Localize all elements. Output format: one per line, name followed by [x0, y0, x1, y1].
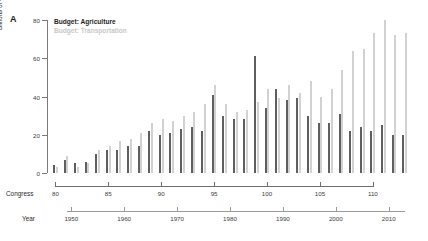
bar	[381, 125, 383, 173]
bar	[299, 93, 301, 173]
bar	[236, 112, 238, 173]
bar	[243, 119, 245, 173]
y-axis-tick	[42, 20, 47, 21]
bar	[339, 114, 341, 173]
bar	[214, 85, 216, 173]
year-axis-tick-label: 1960	[117, 215, 131, 222]
bar	[95, 154, 97, 173]
bar	[66, 156, 68, 173]
congress-axis-tick	[55, 182, 56, 187]
bar	[74, 163, 76, 173]
year-axis-tick	[124, 207, 125, 212]
bar	[225, 104, 227, 173]
bar	[180, 129, 182, 173]
bar	[159, 135, 161, 173]
bar-series-layer	[48, 20, 412, 173]
bar	[246, 110, 248, 173]
bar	[116, 150, 118, 173]
year-axis-tick	[336, 207, 337, 212]
congress-axis-tick-label: 100	[262, 190, 272, 197]
bar	[307, 116, 309, 173]
bar	[77, 167, 79, 173]
bar	[64, 160, 66, 173]
bar	[193, 112, 195, 173]
bar	[370, 131, 372, 173]
bar	[119, 141, 121, 174]
y-axis-tick	[42, 173, 47, 174]
congress-axis-title: Congress	[6, 190, 33, 197]
congress-axis-tick	[373, 182, 374, 187]
bar	[363, 49, 365, 173]
year-axis-tick-label: 1990	[276, 215, 290, 222]
congress-axis-tick-label: 105	[315, 190, 325, 197]
bar	[169, 133, 171, 173]
bar	[109, 146, 111, 173]
congress-axis-tick-label: 85	[105, 190, 112, 197]
bar	[278, 98, 280, 173]
figure-panel-a: A 020406080 Billions of Constant USD Bud…	[0, 0, 428, 241]
y-axis-title: Billions of Constant USD	[0, 0, 3, 70]
bar	[360, 127, 362, 173]
year-axis-tick-label: 2010	[382, 215, 396, 222]
bar	[98, 150, 100, 173]
bar	[288, 85, 290, 173]
bar	[373, 33, 375, 173]
year-axis-title: Year	[22, 215, 35, 222]
bar	[233, 119, 235, 173]
bar	[286, 100, 288, 173]
year-axis-line	[67, 211, 404, 212]
bar	[106, 150, 108, 173]
bar	[151, 123, 153, 173]
congress-axis-tick-label: 95	[211, 190, 218, 197]
y-axis-tick-label: 80	[33, 17, 40, 24]
bar	[349, 131, 351, 173]
year-axis-tick	[389, 207, 390, 212]
bar	[201, 131, 203, 173]
bar	[85, 162, 87, 173]
y-axis-tick	[42, 58, 47, 59]
bar	[172, 121, 174, 173]
year-axis-tick	[283, 207, 284, 212]
congress-axis-tick-label: 90	[158, 190, 165, 197]
legend-item-agriculture: Budget: Agriculture	[54, 18, 127, 27]
congress-axis-tick	[214, 182, 215, 187]
congress-axis-tick	[108, 182, 109, 187]
bar	[56, 167, 58, 173]
panel-label: A	[10, 14, 17, 24]
bar	[320, 97, 322, 174]
year-axis-tick	[230, 207, 231, 212]
bar	[148, 131, 150, 173]
bar	[267, 89, 269, 173]
bar	[204, 104, 206, 173]
year-axis-tick	[177, 207, 178, 212]
bar	[405, 33, 407, 173]
year-axis-tick-label: 1950	[64, 215, 78, 222]
bar	[212, 95, 214, 173]
bar	[254, 56, 256, 173]
bar	[53, 165, 55, 173]
bar	[402, 135, 404, 173]
bar	[392, 135, 394, 173]
y-axis-tick	[42, 135, 47, 136]
legend-item-transportation: Budget: Transportation	[54, 27, 127, 36]
year-axis-tick-label: 2000	[329, 215, 343, 222]
y-axis-tick-label: 0	[37, 170, 40, 177]
bar	[140, 133, 142, 173]
legend: Budget: Agriculture Budget: Transportati…	[54, 18, 127, 35]
y-axis-tick-label: 20	[33, 131, 40, 138]
bar	[331, 89, 333, 173]
year-axis-tick	[71, 207, 72, 212]
bar	[328, 123, 330, 173]
bar	[257, 102, 259, 173]
bar	[341, 70, 343, 173]
bar	[191, 127, 193, 173]
bar	[87, 163, 89, 173]
bar	[296, 98, 298, 173]
bar	[318, 123, 320, 173]
congress-axis-tick	[267, 182, 268, 187]
bar	[310, 81, 312, 173]
bar	[162, 119, 164, 173]
congress-axis-tick-label: 110	[368, 190, 378, 197]
bar	[384, 20, 386, 173]
bar	[352, 51, 354, 173]
